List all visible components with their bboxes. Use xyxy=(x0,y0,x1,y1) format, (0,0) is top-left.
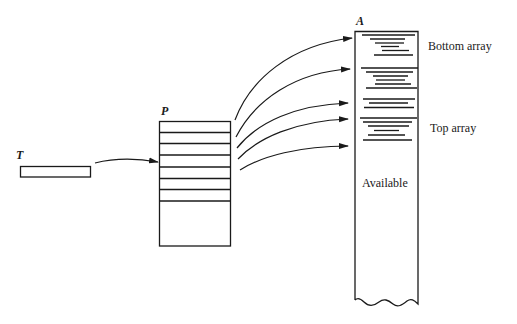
t-box xyxy=(21,167,91,178)
arrow-p-to-a-2 xyxy=(236,69,350,137)
a-box xyxy=(355,32,418,306)
p-box xyxy=(160,122,231,247)
a-block-1 xyxy=(362,35,415,55)
arrow-p-to-a-4 xyxy=(238,119,348,159)
a-block-3 xyxy=(363,99,415,108)
label-top-array: Top array xyxy=(430,122,476,134)
a-block-2 xyxy=(361,68,418,88)
a-block-4 xyxy=(360,118,417,140)
label-p: P xyxy=(161,105,168,117)
arrow-t-to-p xyxy=(95,159,158,163)
label-t: T xyxy=(16,149,23,161)
arrow-p-to-a-5 xyxy=(240,146,348,170)
label-a: A xyxy=(356,15,364,27)
diagram-canvas: T P A Bottom array Top array Available xyxy=(0,0,517,324)
label-bottom-array: Bottom array xyxy=(428,40,492,52)
label-available: Available xyxy=(362,177,408,189)
arrow-p-to-a-1 xyxy=(235,38,352,120)
arrow-p-to-a-3 xyxy=(237,103,348,148)
